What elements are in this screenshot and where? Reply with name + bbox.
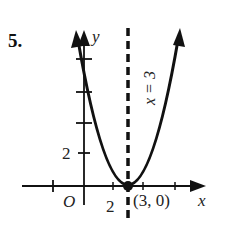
- graph: y x O 2 2 (3, 0) x = 3: [0, 0, 226, 230]
- vertex-point: [123, 181, 133, 191]
- origin-label: O: [63, 192, 75, 211]
- symmetry-label: x = 3: [141, 71, 158, 106]
- x-tick-label: 2: [106, 197, 115, 216]
- vertex-label: (3, 0): [133, 191, 170, 210]
- x-axis-label: x: [197, 191, 206, 210]
- y-axis-label: y: [90, 27, 100, 46]
- y-axis: [76, 30, 92, 205]
- y-tick-label: 2: [62, 144, 71, 163]
- x-axis: [22, 180, 206, 192]
